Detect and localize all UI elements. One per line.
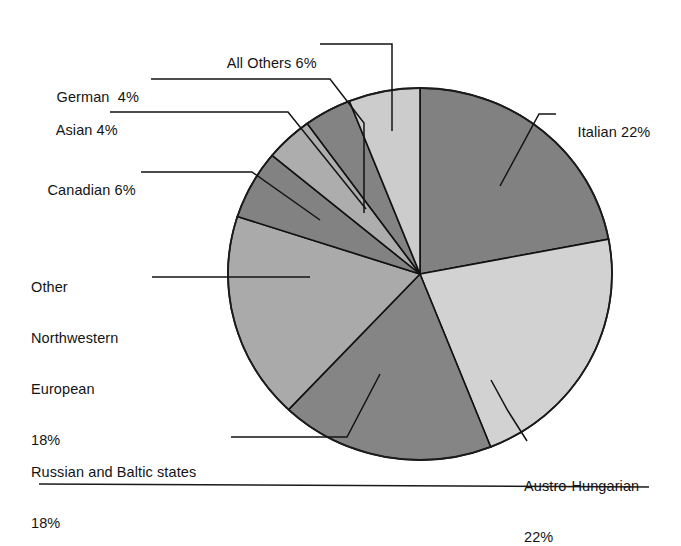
label-italian-text: Italian 22% (578, 124, 651, 140)
label-other-nw-line1: Other (31, 279, 118, 296)
label-austro-hungarian: Austro-Hungarian 22% (524, 444, 639, 546)
label-other-nw-line2: Northwestern (31, 330, 118, 347)
label-asian-text: Asian 4% (56, 122, 118, 138)
label-italian: Italian 22% (561, 107, 650, 158)
label-other-nw-line3: European (31, 381, 118, 398)
label-canadian-text: Canadian 6% (48, 182, 136, 198)
label-canadian: Canadian 6% (31, 165, 136, 216)
label-russian-line2: 18% (31, 515, 196, 532)
label-austro-line2: 22% (524, 529, 639, 546)
label-austro-line1: Austro-Hungarian (524, 478, 639, 495)
label-all-others: All Others 6% (211, 38, 317, 89)
label-german-text: German 4% (57, 89, 139, 105)
label-russian-baltic-states: Russian and Baltic states 18% (31, 430, 196, 546)
pie-slices (228, 88, 612, 460)
label-all-others-text: All Others 6% (227, 55, 317, 71)
label-asian: Asian 4% (40, 105, 118, 156)
label-russian-line1: Russian and Baltic states (31, 464, 196, 481)
